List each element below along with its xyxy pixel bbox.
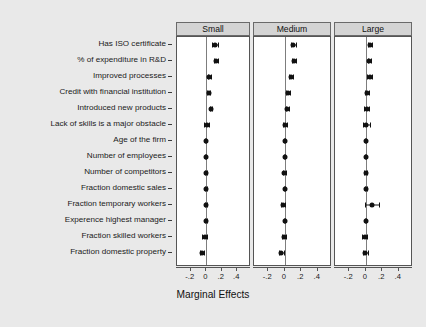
estimate-point [285, 91, 290, 96]
x-axis-tick [267, 268, 268, 271]
category-tick-mark [168, 44, 172, 45]
x-axis-tick-label: -.2 [185, 273, 194, 281]
estimate-point [207, 75, 212, 80]
category-label: Credit with financial institution [59, 88, 166, 96]
category-label: Lack of skills is a major obstacle [50, 120, 166, 128]
confidence-interval-cap [368, 251, 369, 256]
estimate-point [363, 139, 368, 144]
estimate-point [282, 171, 287, 176]
estimate-point [282, 187, 287, 192]
category-label: Number of employees [87, 152, 166, 160]
category-tick-mark [168, 236, 172, 237]
category-tick-mark [168, 156, 172, 157]
category-label: % of expenditure in R&D [77, 56, 166, 64]
x-axis-tick-label: 0 [363, 273, 367, 281]
confidence-interval-cap [370, 123, 371, 128]
estimate-point [204, 203, 209, 208]
estimate-point [203, 155, 208, 160]
category-tick-mark [168, 188, 172, 189]
estimate-point [199, 251, 204, 256]
estimate-point [285, 107, 290, 112]
panel-medium [253, 36, 331, 266]
x-axis-tick [381, 268, 382, 271]
panel-header-large: Large [334, 22, 412, 36]
estimate-point [367, 75, 372, 80]
estimate-point [282, 219, 287, 224]
estimate-point [282, 155, 287, 160]
x-axis-tick [236, 268, 237, 271]
estimate-point [281, 235, 286, 240]
confidence-interval-cap [218, 43, 219, 48]
x-axis-tick [348, 268, 349, 271]
zero-reference-line [206, 37, 207, 265]
x-axis-line [253, 267, 331, 268]
x-axis-tick-label: .4 [395, 273, 401, 281]
panel-header-small: Small [176, 22, 250, 36]
panel-small [176, 36, 250, 266]
estimate-point [363, 187, 368, 192]
estimate-point [208, 107, 213, 112]
category-tick-mark [168, 76, 172, 77]
x-axis-tick-label: -.2 [263, 273, 272, 281]
x-axis-tick [398, 268, 399, 271]
estimate-point [362, 235, 367, 240]
estimate-point [204, 171, 209, 176]
estimate-point [364, 123, 369, 128]
x-axis-tick-label: .4 [314, 273, 320, 281]
estimate-point [214, 59, 219, 64]
category-label: Improved processes [93, 72, 166, 80]
category-axis-labels: Has ISO certificate% of expenditure in R… [0, 0, 174, 327]
x-axis-tick-label: -.2 [344, 273, 353, 281]
category-tick-mark [168, 204, 172, 205]
estimate-point [289, 75, 294, 80]
confidence-interval-cap [379, 203, 380, 208]
estimate-point [203, 219, 208, 224]
category-label: Age of the firm [113, 136, 166, 144]
x-axis-tick-label: .2 [297, 273, 303, 281]
category-tick-mark [168, 172, 172, 173]
estimate-point [202, 235, 207, 240]
category-tick-mark [168, 108, 172, 109]
x-axis-tick-label: .2 [378, 273, 384, 281]
zero-reference-line [366, 37, 367, 265]
x-axis-tick-label: 0 [203, 273, 207, 281]
estimate-point [363, 251, 368, 256]
x-axis-tick-label: .4 [233, 273, 239, 281]
estimate-point [364, 107, 369, 112]
category-tick-mark [168, 220, 172, 221]
estimate-point [206, 91, 211, 96]
estimate-point [367, 59, 372, 64]
x-axis-title: Marginal Effects [0, 290, 426, 300]
category-tick-mark [168, 140, 172, 141]
x-axis-tick [284, 268, 285, 271]
estimate-point [204, 123, 209, 128]
estimate-point [367, 43, 372, 48]
category-label: Fraction domestic sales [81, 184, 166, 192]
x-axis-line [334, 267, 412, 268]
category-label: Number of competitors [84, 168, 166, 176]
confidence-interval-cap [367, 235, 368, 240]
estimate-point [370, 203, 375, 208]
estimate-point [282, 123, 287, 128]
estimate-point [203, 139, 208, 144]
estimate-point [363, 219, 368, 224]
x-axis-tick [190, 268, 191, 271]
estimate-point [279, 251, 284, 256]
zero-reference-line [285, 37, 286, 265]
panel-large [334, 36, 412, 266]
x-axis-tick-label: 0 [282, 273, 286, 281]
confidence-interval-cap [369, 107, 370, 112]
estimate-point [281, 203, 286, 208]
x-axis-tick [365, 268, 366, 271]
confidence-interval-cap [365, 203, 366, 208]
estimate-point [363, 171, 368, 176]
x-axis-tick [317, 268, 318, 271]
category-label: Introduced new products [77, 104, 166, 112]
x-axis-tick [221, 268, 222, 271]
estimate-point [203, 187, 208, 192]
coefficient-plot-figure: Has ISO certificate% of expenditure in R… [0, 0, 426, 327]
category-tick-mark [168, 252, 172, 253]
estimate-point [363, 155, 368, 160]
panel-header-medium: Medium [253, 22, 331, 36]
estimate-point [291, 59, 296, 64]
